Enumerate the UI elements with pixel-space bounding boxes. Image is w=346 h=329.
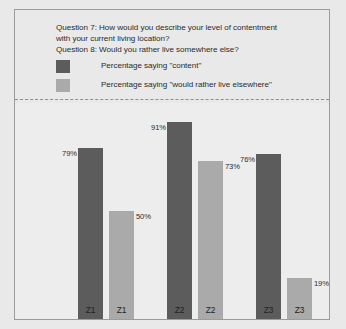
bar-z2-content: 91%Z2 <box>167 122 192 319</box>
chart-screenshot: Question 7: How would you describe your … <box>0 0 346 329</box>
bar-slot: 19%Z3 <box>287 83 312 319</box>
title-line-3: Question 8: Would you rather live somewh… <box>56 44 314 55</box>
bar-z1-elsewhere: 50%Z1 <box>109 211 134 320</box>
bar-z2-elsewhere: 73%Z2 <box>198 161 223 319</box>
x-axis-tick-label: Z3 <box>256 305 281 315</box>
bar-slot: 79%Z1 <box>78 83 103 319</box>
bar-slot: 73%Z2 <box>198 83 223 319</box>
legend-swatch-elsewhere-icon <box>56 79 70 92</box>
bar-value-label: 76% <box>240 155 255 164</box>
bar-value-label: 91% <box>151 123 166 132</box>
bar-value-label: 73% <box>225 162 240 171</box>
x-axis-tick-label: Z1 <box>78 305 103 315</box>
bar-value-label: 50% <box>136 212 151 221</box>
bar-slot: 76%Z3 <box>256 83 281 319</box>
chart-frame: Question 7: How would you describe your … <box>14 9 330 320</box>
legend-swatch-content-icon <box>56 60 70 73</box>
bar-value-label: 79% <box>62 149 77 158</box>
legend-item-content: Percentage saying "content" <box>56 58 321 77</box>
bar-slot: 50%Z1 <box>109 83 134 319</box>
chart-bars-container: 79%Z150%Z191%Z273%Z276%Z319%Z3 <box>35 103 317 319</box>
chart-plot-area: 79%Z150%Z191%Z273%Z276%Z319%Z3 <box>15 103 329 319</box>
title-line-1: Question 7: How would you describe your … <box>56 22 314 33</box>
legend-label-content: Percentage saying "content" <box>101 61 201 70</box>
bar-z3-content: 76%Z3 <box>256 154 281 319</box>
x-axis-tick-label: Z3 <box>287 305 312 315</box>
bar-z1-content: 79%Z1 <box>78 148 103 319</box>
title-line-2: with your current living location? <box>56 33 314 44</box>
bar-value-label: 19% <box>314 279 329 288</box>
bar-z3-elsewhere: 19%Z3 <box>287 278 312 319</box>
x-axis-tick-label: Z2 <box>167 305 192 315</box>
bar-slot: 91%Z2 <box>167 83 192 319</box>
chart-title: Question 7: How would you describe your … <box>56 22 314 56</box>
x-axis-tick-label: Z2 <box>198 305 223 315</box>
x-axis-tick-label: Z1 <box>109 305 134 315</box>
